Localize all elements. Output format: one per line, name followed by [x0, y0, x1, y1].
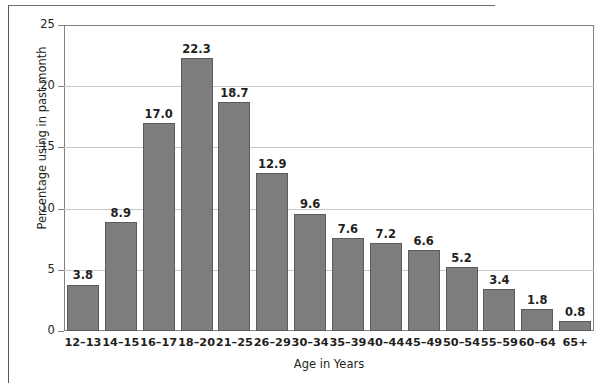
bar-value-label: 0.8	[551, 305, 599, 319]
bar-value-label: 6.6	[400, 234, 448, 248]
bar[interactable]	[105, 222, 137, 331]
x-axis-title: Age in Years	[64, 357, 594, 371]
bar[interactable]	[332, 238, 364, 331]
bar-value-label: 17.0	[135, 107, 183, 121]
bar[interactable]	[143, 123, 175, 331]
bar[interactable]	[294, 214, 326, 332]
bar-value-label: 3.4	[475, 273, 523, 287]
bar-value-label: 18.7	[210, 86, 258, 100]
bar[interactable]	[483, 289, 515, 331]
bar-value-label: 9.6	[286, 197, 334, 211]
bar-value-label: 5.2	[438, 251, 486, 265]
bar-value-label: 3.8	[59, 268, 107, 282]
bar[interactable]	[218, 102, 250, 331]
y-axis-title: Percentage using in past month	[35, 23, 49, 253]
page-rule-left	[8, 5, 9, 383]
bar[interactable]	[521, 309, 553, 331]
y-tick-label: 0	[24, 323, 55, 337]
bar[interactable]	[559, 321, 591, 331]
y-tick-label: 5	[24, 262, 55, 276]
bar-value-label: 8.9	[97, 206, 145, 220]
page-rule-top	[8, 5, 495, 6]
y-tick-mark	[58, 331, 64, 332]
bar[interactable]	[256, 173, 288, 331]
bar[interactable]	[370, 243, 402, 331]
bar[interactable]	[181, 58, 213, 331]
bar[interactable]	[446, 267, 478, 331]
bar-value-label: 22.3	[173, 42, 221, 56]
bar[interactable]	[408, 250, 440, 331]
bar-value-label: 12.9	[248, 157, 296, 171]
bar[interactable]	[67, 285, 99, 332]
bar-chart-figure: 0510152025 Percentage using in past mont…	[0, 0, 606, 383]
x-tick-label: 65+	[549, 336, 601, 349]
